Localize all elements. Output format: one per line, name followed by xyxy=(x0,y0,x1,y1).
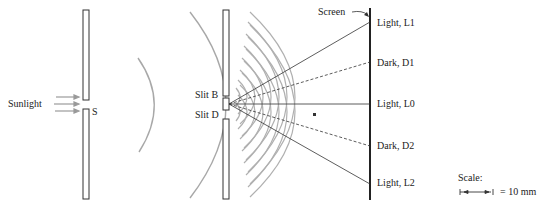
fringe-light-l1: Light, L1 xyxy=(377,17,415,29)
fringe-rays xyxy=(229,22,370,184)
sunlight-label: Sunlight xyxy=(8,98,42,110)
fringe-dark-d1: Dark, D1 xyxy=(377,57,414,69)
double-slit-barrier xyxy=(223,10,229,199)
diffracted-wavefronts xyxy=(236,12,295,197)
sunlight-arrows xyxy=(54,95,79,113)
scale-label: Scale: xyxy=(458,172,482,184)
fringe-light-l0: Light, L0 xyxy=(377,98,415,110)
fringe-light-l2: Light, L2 xyxy=(377,177,415,189)
fringe-dark-d2: Dark, D2 xyxy=(377,140,414,152)
screen-label: Screen xyxy=(318,6,345,18)
primary-wavefronts xyxy=(138,12,226,198)
single-slit-barrier xyxy=(83,10,89,199)
mouse-cursor-mark xyxy=(313,113,316,116)
scale-bar xyxy=(460,189,493,195)
single-slit-label: S xyxy=(92,106,98,118)
slit-b-label: Slit B xyxy=(195,89,218,101)
scale-value: = 10 mm xyxy=(500,186,536,198)
slit-d-label: Slit D xyxy=(195,109,219,121)
